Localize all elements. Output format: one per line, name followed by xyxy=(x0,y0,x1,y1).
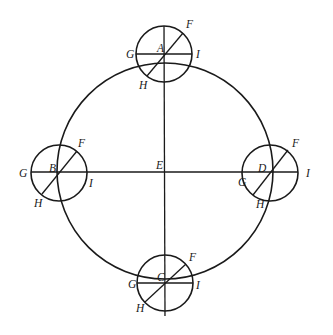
label-b-f: F xyxy=(77,137,86,149)
label-a-h: H xyxy=(138,79,148,91)
label-d-g: G xyxy=(238,176,247,188)
label-c-f: F xyxy=(188,251,197,263)
label-b-i: I xyxy=(88,177,94,189)
label-c-i: I xyxy=(195,279,201,291)
label-d-i: I xyxy=(305,167,311,179)
label-d-h: H xyxy=(255,198,265,210)
label-b-h: H xyxy=(33,197,43,209)
label-e: E xyxy=(155,159,163,171)
label-a-f: F xyxy=(185,18,194,30)
label-a-g: G xyxy=(126,48,135,60)
small-circle-group-d: D F G H I xyxy=(238,137,311,210)
label-b: B xyxy=(49,162,56,174)
label-b-g: G xyxy=(19,167,28,179)
label-d: D xyxy=(257,162,267,174)
label-a: A xyxy=(156,42,165,54)
label-d-f: F xyxy=(291,137,300,149)
label-c-h: H xyxy=(135,302,145,314)
label-c-g: G xyxy=(128,278,137,290)
geometry-diagram: A F G H I B F G H I D F G H I C F G H I … xyxy=(0,0,333,335)
label-c: C xyxy=(157,271,165,283)
label-a-i: I xyxy=(195,48,201,60)
